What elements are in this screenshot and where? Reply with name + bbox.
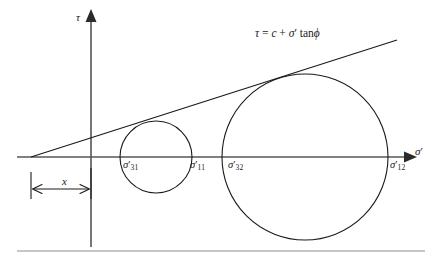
sigma-3-2-subscript: 32: [235, 163, 243, 172]
x-axis-label: σ′: [415, 146, 423, 157]
figure-canvas: [0, 0, 441, 264]
envelope-plus: +: [276, 27, 288, 39]
failure-envelope-equation: τ = c + σ′ tanϕ: [255, 28, 320, 40]
envelope-tan: tan: [297, 27, 314, 39]
envelope-equals: =: [259, 27, 271, 39]
sigma-1-2-subscript: 12: [397, 163, 405, 172]
label-sigma-3-1: σ′31: [123, 160, 138, 172]
label-sigma-3-2: σ′32: [228, 160, 243, 172]
y-axis-arrowhead: [86, 9, 97, 22]
sigma-1-1-subscript: 11: [197, 163, 205, 172]
mohr-circle-figure: τ σ′ τ = c + σ′ tanϕ σ′31 σ′11 σ′32 σ′12…: [0, 0, 441, 264]
envelope-phi: ϕ: [314, 27, 320, 39]
dimension-label-x: x: [62, 176, 67, 187]
label-sigma-1-2: σ′12: [390, 160, 405, 172]
sigma-3-1-subscript: 31: [130, 163, 138, 172]
failure-envelope-line: [31, 40, 397, 157]
y-axis-label: τ: [76, 12, 80, 23]
x-axis-label-prime: ′: [420, 145, 422, 157]
label-sigma-1-1: σ′11: [190, 160, 205, 172]
